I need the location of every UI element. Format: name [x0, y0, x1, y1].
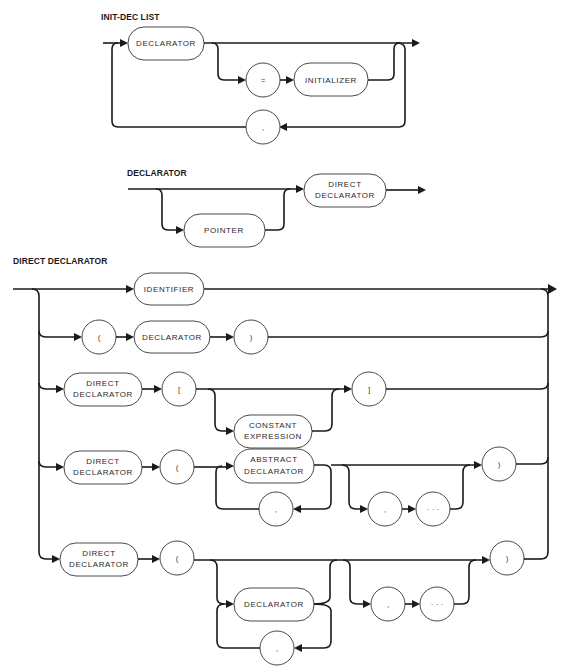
wire — [342, 465, 360, 509]
wire — [541, 289, 548, 296]
node-label: ABSTRACT — [250, 455, 297, 464]
arrow-icon — [474, 461, 482, 469]
arrow-icon — [56, 385, 64, 393]
node-label: = — [261, 76, 266, 85]
wire — [32, 289, 52, 559]
node-label: IDENTIFIER — [144, 285, 194, 294]
diagram-title: DECLARATOR — [127, 168, 187, 178]
node-label: · · · — [431, 600, 443, 609]
node-label: ) — [498, 460, 501, 469]
node-label: DIRECT — [328, 180, 361, 189]
arrow-icon — [418, 186, 426, 194]
node-label: ( — [176, 463, 179, 472]
direct-declarator-diagram: DIRECT DECLARATOR IDENTIFIER ( DECLARATO… — [13, 256, 557, 665]
node-label: DECLARATOR — [244, 467, 304, 476]
node-label: ( — [98, 333, 101, 342]
arrow-icon — [344, 385, 352, 393]
arrow-icon — [294, 644, 302, 652]
arrow-icon — [226, 462, 234, 470]
syntax-diagram-canvas: INIT-DEC LIST DECLARATOR = INITIALIZER ,… — [0, 0, 570, 672]
node-label: INITIALIZER — [305, 76, 357, 85]
arrow-icon — [226, 600, 234, 608]
arrow-icon — [412, 39, 420, 47]
arrow-icon — [363, 600, 371, 608]
node-label: DECLARATOR — [73, 390, 133, 399]
node-label: , — [275, 505, 277, 514]
wire — [314, 560, 337, 604]
arrow-icon — [154, 385, 162, 393]
node-label: DIRECT — [82, 549, 115, 558]
node-label: DECLARATOR — [73, 468, 133, 477]
node-label: DECLARATOR — [136, 39, 196, 48]
diagram-title: INIT-DEC LIST — [101, 12, 160, 22]
node-label: , — [276, 644, 278, 653]
node-label: DIRECT — [86, 379, 119, 388]
arrow-icon — [152, 555, 160, 563]
node-label: ( — [176, 554, 179, 563]
wire — [210, 560, 226, 604]
node-label: · · · — [427, 505, 439, 514]
arrow-icon — [482, 556, 490, 564]
wire — [368, 43, 400, 80]
wire — [450, 465, 470, 509]
wire — [39, 331, 74, 337]
arrow-icon — [56, 463, 64, 471]
arrow-icon — [548, 284, 557, 294]
arrow-icon — [408, 505, 416, 513]
arrow-icon — [412, 600, 420, 608]
node-label: POINTER — [204, 226, 244, 235]
wire — [156, 189, 176, 230]
node-label: DIRECT — [86, 457, 119, 466]
declarator-diagram: DECLARATOR DIRECT DECLARATOR POINTER — [127, 168, 426, 247]
arrow-icon — [226, 427, 234, 435]
wire — [268, 331, 548, 337]
wire — [454, 560, 476, 604]
node-label: , — [387, 600, 389, 609]
node-label: CONSTANT — [249, 421, 297, 430]
wire — [208, 389, 226, 431]
node-label: DECLARATOR — [244, 600, 304, 609]
node-label: DECLARATOR — [142, 333, 202, 342]
diagram-title: DIRECT DECLARATOR — [13, 256, 107, 266]
node-label: EXPRESSION — [244, 432, 302, 441]
arrow-icon — [293, 505, 301, 513]
wire — [265, 189, 290, 230]
arrow-icon — [126, 333, 134, 341]
arrow-icon — [52, 555, 60, 563]
node-label: ) — [506, 554, 509, 563]
node-label: DECLARATOR — [315, 191, 375, 200]
arrow-icon — [74, 333, 82, 341]
node-label: DECLARATOR — [69, 560, 129, 569]
node-label: , — [262, 123, 264, 132]
arrow-icon — [120, 39, 128, 47]
wire — [386, 383, 548, 389]
arrow-icon — [296, 185, 304, 193]
wire — [516, 457, 548, 464]
node-label: , — [384, 505, 386, 514]
arrow-icon — [226, 333, 234, 341]
wire — [312, 389, 339, 431]
wire — [39, 383, 56, 389]
arrow-icon — [152, 463, 160, 471]
arrow-icon — [360, 505, 368, 513]
wire — [212, 43, 238, 80]
wire — [343, 560, 363, 604]
arrow-icon — [176, 226, 184, 234]
node-label: ) — [250, 333, 253, 342]
arrow-icon — [238, 76, 246, 84]
node-label: ] — [368, 385, 370, 394]
arrow-icon — [286, 76, 294, 84]
init-dec-list-diagram: INIT-DEC LIST DECLARATOR = INITIALIZER , — [101, 12, 420, 144]
wire — [39, 461, 56, 467]
arrow-icon — [126, 285, 134, 293]
